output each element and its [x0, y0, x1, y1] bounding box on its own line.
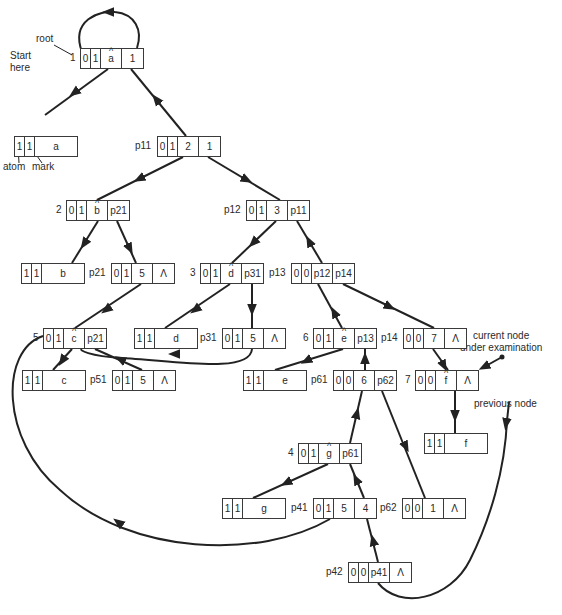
edge-2-p21 [117, 221, 136, 263]
mark-bit: 1 [435, 434, 445, 453]
atom-bit: 0 [334, 371, 344, 390]
dlink-field: 2 [178, 137, 199, 156]
atom-bit: 0 [416, 371, 426, 390]
node-p11: 0121 [157, 136, 221, 157]
mark-bit: 0 [302, 264, 312, 283]
edge-p14-7 [433, 349, 448, 370]
mark-bit: 1 [122, 264, 132, 283]
node-g: 11g [222, 498, 286, 519]
mark-bit: 0 [414, 329, 424, 348]
atom-bit: 0 [299, 444, 309, 463]
dlink-field: g [243, 499, 285, 518]
mark-bit: 1 [254, 371, 264, 390]
atom-bit: 1 [223, 499, 233, 518]
root-annotation: root [36, 33, 53, 44]
node-p41: 0154 [313, 498, 377, 519]
atom-annotation: atom [3, 161, 25, 172]
atom-bit: 0 [67, 201, 77, 220]
node-label-p42: p42 [326, 566, 343, 577]
rlink-field: p61 [340, 444, 361, 463]
start-here-annotation: Start here [10, 50, 31, 74]
mark-bit: 1 [25, 137, 35, 156]
dlink-field: b^ [87, 201, 108, 220]
atom-bit: 1 [23, 371, 33, 390]
rlink-field: 4 [355, 499, 376, 518]
dlink-field: p41 [369, 563, 390, 582]
atom-bit: 1 [135, 329, 145, 348]
dlink-field: e^ [334, 329, 355, 348]
atom-bit: 0 [113, 371, 123, 390]
node-4: 01g^p61 [298, 443, 362, 464]
hat-mark: ^ [436, 368, 456, 378]
node-label-7: 7 [405, 374, 411, 385]
dlink-field: 5 [334, 499, 355, 518]
node-label-p14: p14 [381, 332, 398, 343]
mark-bit: 0 [413, 499, 423, 518]
dlink-field: 7 [424, 329, 445, 348]
mark-bit: 1 [309, 444, 319, 463]
dlink-field: d [155, 329, 197, 348]
mark-bit: 0 [344, 371, 354, 390]
rlink-field: p21 [85, 329, 106, 348]
node-label-3: 3 [190, 267, 196, 278]
edge-p21-5 [75, 284, 141, 328]
node-c: 11c [22, 370, 86, 391]
node-label-p31: p31 [200, 332, 217, 343]
atom-bit: 0 [247, 201, 257, 220]
atom-bit: 0 [81, 49, 91, 68]
rlink-field: 1 [122, 49, 143, 68]
node-p31: 015Λ [222, 328, 286, 349]
dlink-field: c^ [64, 329, 85, 348]
rlink-field: Λ [264, 329, 285, 348]
node-label-p13: p13 [269, 267, 286, 278]
rlink-field: p21 [108, 201, 129, 220]
rlink-field: Λ [445, 329, 466, 348]
node-a: 11a [14, 136, 78, 157]
node-label-p21: p21 [89, 267, 106, 278]
mark-bit: 1 [233, 329, 243, 348]
atom-bit: 0 [44, 329, 54, 348]
mark-bit: 1 [33, 371, 43, 390]
node-7: 00f^Λ [415, 370, 479, 391]
atom-bit: 1 [22, 264, 32, 283]
edge-4-g [253, 464, 328, 498]
hat-mark: ^ [101, 46, 121, 56]
dlink-field: b [42, 264, 84, 283]
rlink-field: Λ [154, 371, 175, 390]
atom-bit: 0 [349, 563, 359, 582]
node-1: 01a^1 [80, 48, 144, 69]
atom-bit: 0 [314, 499, 324, 518]
node-label-p41: p41 [291, 502, 308, 513]
hat-mark: ^ [221, 261, 241, 271]
node-p61: 006p62 [333, 370, 397, 391]
atom-bit: 0 [223, 329, 233, 348]
hat-mark: ^ [64, 326, 84, 336]
dlink-field: f^ [436, 371, 457, 390]
node-2: 01b^p21 [66, 200, 130, 221]
node-label-1: 1 [70, 52, 76, 63]
dlink-field: p12 [312, 264, 333, 283]
atom-bit: 0 [404, 329, 414, 348]
node-p62: 001Λ [402, 498, 466, 519]
atom-bit: 1 [244, 371, 254, 390]
dlink-field: 5 [132, 264, 153, 283]
previous-node-annotation: previous node [474, 398, 537, 409]
node-p14: 007Λ [403, 328, 467, 349]
mark-bit: 1 [77, 201, 87, 220]
node-d: 11d [134, 328, 198, 349]
dlink-field: a [35, 137, 77, 156]
node-6: 01e^p13 [313, 328, 377, 349]
atom-bit: 1 [15, 137, 25, 156]
node-label-4: 4 [288, 447, 294, 458]
rlink-field: p11 [288, 201, 309, 220]
mark-bit: 0 [359, 563, 369, 582]
mark-bit: 1 [324, 499, 334, 518]
node-p12: 013p11 [246, 200, 310, 221]
mark-annotation: mark [32, 161, 54, 172]
node-b: 11b [21, 263, 85, 284]
dlink-field: 6 [354, 371, 375, 390]
edges-layer [0, 0, 562, 615]
atom-bit: 0 [403, 499, 413, 518]
node-e: 11e [243, 370, 307, 391]
rlink-field: p62 [375, 371, 396, 390]
